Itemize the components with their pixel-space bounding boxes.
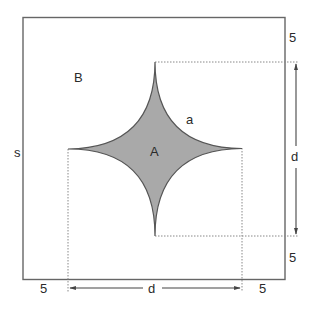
label-margin-bottom-right: 5 xyxy=(289,250,296,265)
label-region-b: B xyxy=(74,70,83,85)
label-margin-bottom-right-lower: 5 xyxy=(259,281,266,296)
label-margin-top-right: 5 xyxy=(289,30,296,45)
dotted-guides xyxy=(68,62,299,292)
label-side-s: s xyxy=(14,145,21,160)
label-region-a: A xyxy=(150,144,159,159)
geometry-diagram: B A a s d d 5 5 5 5 xyxy=(0,0,312,312)
label-dimension-horizontal-d: d xyxy=(148,281,155,296)
label-dimension-vertical-d: d xyxy=(291,149,298,164)
label-margin-bottom-left: 5 xyxy=(40,281,47,296)
label-arc-a: a xyxy=(186,112,194,127)
